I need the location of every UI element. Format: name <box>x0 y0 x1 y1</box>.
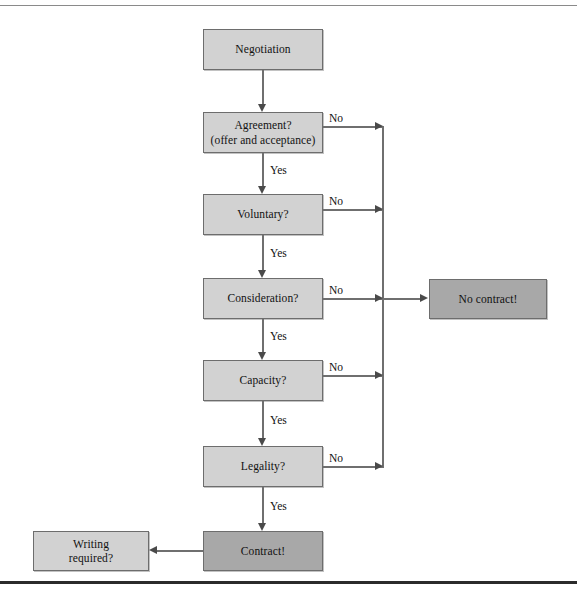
node-negotiation[interactable]: Negotiation <box>203 29 323 70</box>
edge-contract-to-writing-line <box>157 550 204 552</box>
edge-capacity-yes-arrow <box>258 438 266 446</box>
node-no-contract[interactable]: No contract! <box>429 279 547 319</box>
flowchart-figure: Negotiation Agreement? (offer and accept… <box>0 0 577 612</box>
top-rule <box>0 5 577 6</box>
node-writing-required-label-line1: Writing <box>69 537 113 551</box>
node-no-contract-label: No contract! <box>455 292 522 306</box>
edge-contract-to-writing-arrow <box>149 546 157 554</box>
edge-negotiation-to-agreement-arrow <box>258 104 266 112</box>
edge-legality-yes-line <box>262 487 264 525</box>
edge-label-capacity-no: No <box>329 361 343 373</box>
bottom-rule <box>0 581 577 584</box>
node-consideration-label: Consideration? <box>223 291 302 305</box>
edge-consideration-yes-line <box>262 319 264 354</box>
edge-legality-yes-arrow <box>258 523 266 531</box>
edge-label-consideration-yes: Yes <box>270 330 287 342</box>
node-legality[interactable]: Legality? <box>203 446 323 487</box>
node-voluntary-label: Voluntary? <box>233 207 292 221</box>
node-voluntary[interactable]: Voluntary? <box>203 194 323 235</box>
edge-voluntary-yes-arrow <box>258 270 266 278</box>
node-writing-required-label-line2: required? <box>65 551 117 565</box>
edge-label-agreement-yes: Yes <box>270 164 287 176</box>
edge-agreement-no-arrow <box>375 122 383 130</box>
edge-label-voluntary-no: No <box>329 195 343 207</box>
edge-label-voluntary-yes: Yes <box>270 247 287 259</box>
node-agreement-label-line2: (offer and acceptance) <box>207 133 320 147</box>
node-writing-required[interactable]: Writing required? <box>33 531 149 571</box>
node-contract[interactable]: Contract! <box>203 531 323 571</box>
node-negotiation-label: Negotiation <box>231 42 294 56</box>
edge-voluntary-yes-line <box>262 235 264 272</box>
edge-label-legality-no: No <box>329 452 343 464</box>
node-agreement[interactable]: Agreement? (offer and acceptance) <box>203 112 323 153</box>
edge-label-consideration-no: No <box>329 284 343 296</box>
edge-label-agreement-no: No <box>329 112 343 124</box>
node-capacity-label: Capacity? <box>236 373 291 387</box>
node-capacity[interactable]: Capacity? <box>203 360 323 401</box>
edge-consideration-no-arrow <box>375 294 383 302</box>
edge-capacity-no-arrow <box>375 371 383 379</box>
node-contract-label: Contract! <box>237 544 289 558</box>
edge-spine-to-no-contract-line <box>384 298 422 300</box>
edge-spine-to-no-contract-arrow <box>420 294 428 302</box>
edge-negotiation-to-agreement-line <box>262 70 264 106</box>
node-legality-label: Legality? <box>237 459 289 473</box>
edge-legality-no-arrow <box>375 462 383 470</box>
edge-agreement-yes-line <box>262 153 264 188</box>
edge-capacity-yes-line <box>262 401 264 440</box>
edge-agreement-yes-arrow <box>258 186 266 194</box>
edge-consideration-yes-arrow <box>258 352 266 360</box>
edge-label-capacity-yes: Yes <box>270 414 287 426</box>
edge-voluntary-no-arrow <box>375 205 383 213</box>
edge-label-legality-yes: Yes <box>270 500 287 512</box>
node-agreement-label-line1: Agreement? <box>230 118 295 132</box>
node-consideration[interactable]: Consideration? <box>203 278 323 319</box>
